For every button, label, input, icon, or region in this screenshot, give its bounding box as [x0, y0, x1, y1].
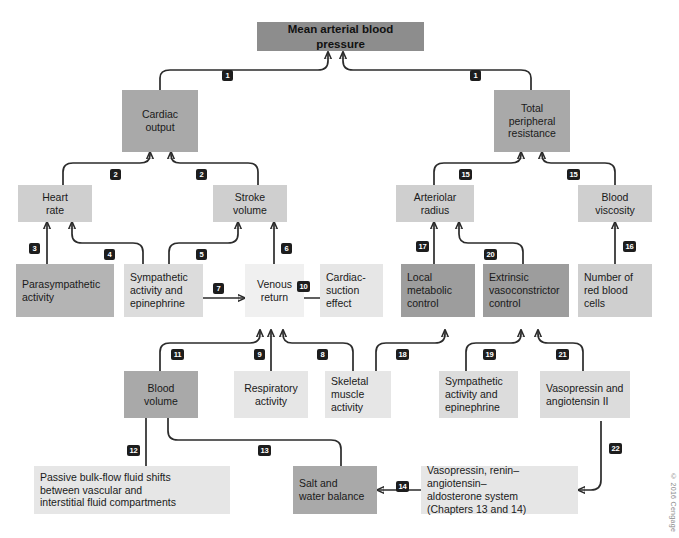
- node-skeletal-muscle-activity: Skeletal muscle activity: [325, 371, 391, 418]
- node-blood-viscosity: Blood viscosity: [578, 185, 652, 222]
- node-arteriolar-radius: Arteriolar radius: [396, 185, 474, 222]
- node-cardiac-output: Cardiac output: [122, 90, 198, 152]
- copyright-notice: © 2016 Cengage: [670, 473, 677, 532]
- edge-1-cardiac-output-to-map: [160, 52, 328, 90]
- node-venous-return: Venous return: [245, 264, 304, 317]
- node-sympathetic-activity-epinephrine-left: Sympathetic activity and epinephrine: [124, 264, 203, 317]
- node-parasympathetic-activity: Parasympathetic activity: [16, 264, 114, 317]
- node-passive-bulk-flow-fluid-shifts: Passive bulk-flow fluid shifts between v…: [34, 466, 230, 514]
- node-blood-volume: Blood volume: [124, 371, 198, 418]
- node-number-of-red-blood-cells: Number of red blood cells: [578, 264, 652, 317]
- badge-21: 21: [556, 349, 569, 360]
- edge-1-tpr-to-map: [343, 52, 531, 90]
- node-salt-and-water-balance: Salt and water balance: [293, 466, 377, 514]
- node-heart-rate: Heart rate: [18, 185, 92, 222]
- badge-16: 16: [623, 241, 636, 252]
- node-vasopressin-renin-aldosterone-system: Vasopressin, renin–angiotensin– aldoster…: [421, 466, 578, 514]
- badge-8: 8: [317, 349, 328, 360]
- badge-12: 12: [127, 445, 140, 456]
- badge-18: 18: [396, 349, 409, 360]
- node-local-metabolic-control: Local metabolic control: [401, 264, 475, 317]
- node-sympathetic-activity-epinephrine-right: Sympathetic activity and epinephrine: [439, 371, 518, 418]
- badge-11: 11: [171, 349, 184, 360]
- node-vasopressin-angiotensin: Vasopressin and angiotensin II: [540, 371, 630, 418]
- edge-15-arteriolar-radius-to-tpr: [434, 152, 521, 185]
- badge-19: 19: [483, 349, 496, 360]
- node-extrinsic-vasoconstrictor-control: Extrinsic vasoconstrictor control: [483, 264, 569, 317]
- badge-17: 17: [416, 241, 429, 252]
- badge-22: 22: [609, 443, 622, 454]
- badge-15-right: 15: [567, 169, 580, 180]
- node-stroke-volume: Stroke volume: [213, 185, 287, 222]
- edge-2-stroke-volume-to-cardiac-output: [171, 152, 258, 185]
- figure-canvas: Mean arterial blood pressure Cardiac out…: [0, 0, 679, 538]
- badge-13: 13: [258, 445, 271, 456]
- node-total-peripheral-resistance: Total peripheral resistance: [494, 90, 570, 152]
- badge-6: 6: [281, 243, 292, 254]
- edge-2-heart-rate-to-cardiac-output: [63, 152, 150, 185]
- node-respiratory-activity: Respiratory activity: [234, 371, 308, 418]
- badge-3: 3: [29, 243, 40, 254]
- badge-5: 5: [196, 249, 207, 260]
- badge-2-left: 2: [110, 169, 121, 180]
- badge-10: 10: [297, 281, 310, 292]
- node-cardiac-suction-effect: Cardiac- suction effect: [320, 264, 383, 317]
- badge-14: 14: [396, 481, 409, 492]
- badge-2-right: 2: [196, 169, 207, 180]
- badge-4: 4: [104, 249, 115, 260]
- node-mean-arterial-blood-pressure: Mean arterial blood pressure: [257, 22, 424, 51]
- edge-22-vasopressin-to-renin-system: [578, 421, 601, 490]
- badge-1-left: 1: [222, 70, 233, 81]
- badge-7: 7: [213, 283, 224, 294]
- badge-9: 9: [254, 349, 265, 360]
- edge-18-skeletal-muscle-to-local-metabolic: [376, 330, 445, 371]
- badge-1-right: 1: [470, 70, 481, 81]
- badge-20: 20: [484, 249, 497, 260]
- badge-15-left: 15: [459, 169, 472, 180]
